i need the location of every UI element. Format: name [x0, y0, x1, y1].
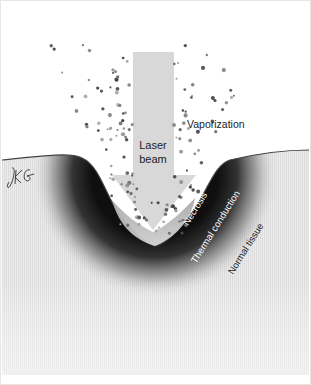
laser-beam-label-line1: Laser: [139, 139, 167, 151]
laser-beam-label-line2: beam: [139, 153, 167, 165]
vaporization-label: Vaporization: [187, 118, 245, 130]
laser-tissue-diagram: Laser beam Vaporization Necrosis Thermal…: [0, 0, 311, 385]
diagram-canvas: Laser beam Vaporization Necrosis Thermal…: [0, 0, 311, 385]
